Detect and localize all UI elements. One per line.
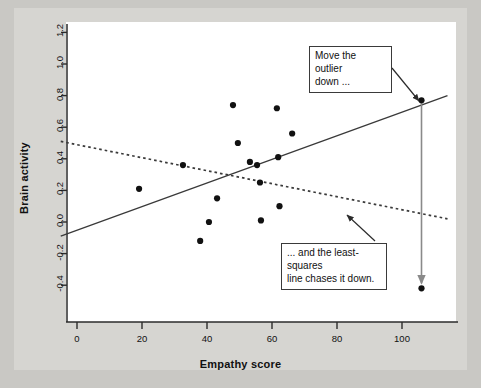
data-point: [275, 154, 281, 160]
y-tick-label: 1.2: [54, 16, 65, 46]
data-point: [136, 186, 142, 192]
y-tick-label: 0.2: [54, 174, 65, 204]
x-tick-label: 20: [127, 333, 157, 344]
data-point: [247, 159, 253, 165]
regression-line-dotted: [61, 141, 448, 218]
data-point: [214, 195, 220, 201]
data-point: [180, 162, 186, 168]
plot-canvas: [0, 0, 481, 388]
callout-arrow-least-squares: [347, 215, 375, 241]
data-point: [235, 140, 241, 146]
data-point: [257, 179, 263, 185]
annotation-move-outlier: Move the outlier down ...: [309, 46, 392, 93]
y-axis-label: Brain activity: [18, 108, 30, 248]
data-point: [206, 219, 212, 225]
data-point: [230, 102, 236, 108]
data-point: [274, 105, 280, 111]
x-tick-label: 40: [192, 333, 222, 344]
data-point: [276, 203, 282, 209]
x-tick-label: 0: [62, 333, 92, 344]
y-tick-label: 1.0: [54, 48, 65, 78]
x-tick-label: 100: [387, 333, 417, 344]
y-tick-label: -0.4: [54, 269, 65, 299]
outlier-point-moved: [418, 285, 424, 291]
data-point: [258, 217, 264, 223]
y-tick-label: 0.8: [54, 79, 65, 109]
data-point: [254, 162, 260, 168]
y-tick-label: 0.6: [54, 111, 65, 141]
annotation-least-squares: ... and the least-squares line chases it…: [281, 243, 387, 290]
y-tick-label: 0.0: [54, 206, 65, 236]
y-tick-label: -0.2: [54, 237, 65, 267]
x-tick-label: 60: [257, 333, 287, 344]
x-axis-label: Empathy score: [0, 358, 481, 370]
callout-arrows: [347, 68, 419, 241]
data-point: [289, 130, 295, 136]
callout-arrow-move-outlier: [392, 68, 419, 101]
x-tick-label: 80: [322, 333, 352, 344]
axes: [61, 24, 458, 329]
figure-scatter-plot: -0.4-0.20.00.20.40.60.81.01.2 0204060801…: [0, 0, 481, 388]
y-tick-label: 0.4: [54, 142, 65, 172]
x-tick-marks: [77, 322, 402, 329]
data-point: [197, 238, 203, 244]
outlier-point-original: [418, 97, 424, 103]
